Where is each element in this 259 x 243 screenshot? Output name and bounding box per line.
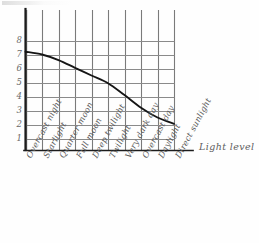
chart-canvas [0,0,259,243]
y-tick-label: 3 [8,105,22,115]
data-curve [26,52,175,124]
light-level-chart: Overcast nightStarlightQuarter moonFull … [0,0,259,243]
y-tick-label: 6 [8,63,22,73]
y-tick-label: 4 [8,91,22,101]
x-axis-title: Light level [199,141,254,152]
y-tick-label: 8 [8,35,22,45]
y-tick-label: 5 [8,77,22,87]
y-tick-label: 2 [8,119,22,129]
y-tick-label: 1 [8,133,22,143]
y-tick-label: 7 [8,49,22,59]
